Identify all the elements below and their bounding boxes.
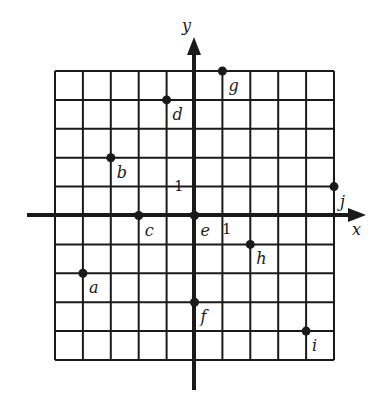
point-label-d: d xyxy=(173,105,183,124)
y-axis-label: y xyxy=(181,16,192,35)
point-label-a: a xyxy=(89,278,99,297)
point-label-c: c xyxy=(145,221,154,240)
point-b xyxy=(106,153,115,162)
point-label-i: i xyxy=(312,336,317,355)
point-f xyxy=(190,298,199,307)
point-d xyxy=(162,95,171,104)
axes: x y 1 1 xyxy=(27,16,366,390)
y-unit-label: 1 xyxy=(174,177,184,195)
coordinate-plane: x y 1 1 abcdefghij xyxy=(0,0,390,410)
point-c xyxy=(134,211,143,220)
point-g xyxy=(218,67,227,76)
plotted-points: abcdefghij xyxy=(78,67,345,356)
x-axis-label: x xyxy=(352,220,361,239)
point-label-b: b xyxy=(117,163,127,182)
point-label-h: h xyxy=(256,249,266,268)
point-label-j: j xyxy=(337,192,345,211)
point-label-e: e xyxy=(201,221,210,240)
point-h xyxy=(246,240,255,249)
point-label-f: f xyxy=(200,307,210,326)
x-unit-label: 1 xyxy=(222,220,232,238)
point-a xyxy=(78,269,87,278)
point-j xyxy=(330,182,339,191)
point-e xyxy=(190,211,199,220)
y-axis-arrow-icon xyxy=(187,37,201,55)
point-label-g: g xyxy=(228,76,238,95)
point-i xyxy=(302,327,311,336)
